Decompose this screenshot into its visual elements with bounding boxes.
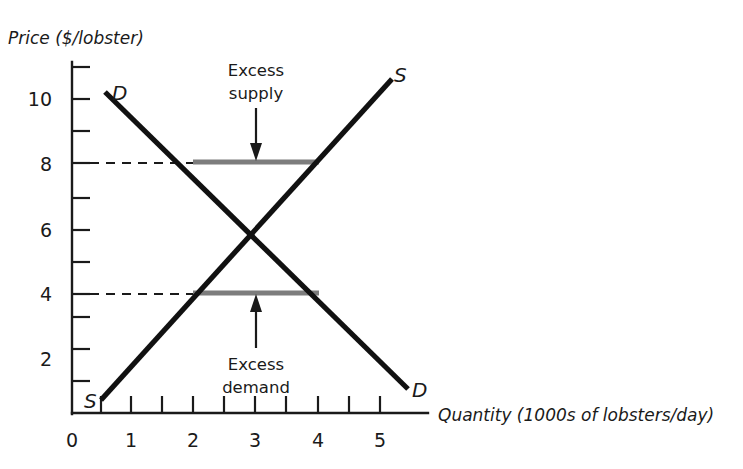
supply-curve bbox=[101, 79, 392, 400]
x-tick-label-3: 3 bbox=[249, 429, 261, 451]
supply-curve-label-bottom: S bbox=[84, 389, 97, 413]
excess-supply-label-line2: supply bbox=[229, 84, 284, 103]
demand-curve-label-bottom: D bbox=[412, 378, 427, 402]
demand-curve-label-top: D bbox=[112, 81, 127, 105]
y-tick-label-4: 4 bbox=[40, 283, 52, 305]
x-axis-title: Quantity (1000s of lobsters/day) bbox=[438, 405, 714, 425]
x-axis-ticks bbox=[101, 396, 380, 413]
excess-demand-arrow-head bbox=[250, 294, 262, 312]
supply-demand-figure: Price ($/lobster) Quantity (1000s of lob… bbox=[0, 0, 743, 469]
chart-canvas: Price ($/lobster) Quantity (1000s of lob… bbox=[0, 0, 743, 469]
y-tick-label-8: 8 bbox=[40, 153, 52, 175]
y-tick-label-2: 2 bbox=[40, 348, 52, 370]
excess-supply-arrow-head bbox=[250, 143, 262, 161]
curves-group bbox=[101, 79, 408, 400]
excess-demand-label-line2: demand bbox=[222, 378, 290, 397]
x-tick-label-4: 4 bbox=[312, 429, 324, 451]
y-axis-ticks bbox=[72, 67, 90, 381]
x-tick-label-0: 0 bbox=[66, 429, 78, 451]
x-tick-label-5: 5 bbox=[374, 429, 386, 451]
guide-lines-group bbox=[74, 163, 196, 294]
y-tick-label-10: 10 bbox=[28, 88, 52, 110]
x-tick-label-2: 2 bbox=[187, 429, 199, 451]
y-tick-label-6: 6 bbox=[40, 219, 52, 241]
y-axis-title: Price ($/lobster) bbox=[8, 28, 144, 48]
supply-curve-label-top: S bbox=[394, 63, 407, 87]
excess-demand-label-line1: Excess bbox=[228, 355, 284, 374]
excess-supply-label-line1: Excess bbox=[228, 61, 284, 80]
x-tick-label-1: 1 bbox=[125, 429, 137, 451]
